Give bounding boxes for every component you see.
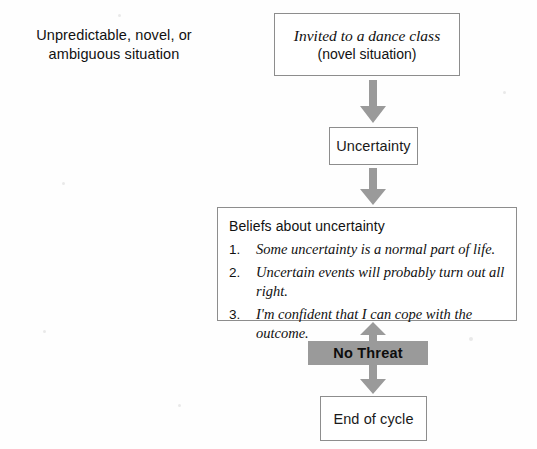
arrow-nothreat-to-endofcycle: [359, 364, 387, 395]
belief-item-number: 2.: [229, 265, 256, 280]
node-uncertainty: Uncertainty: [329, 127, 418, 165]
caption-line-2: ambiguous situation: [6, 45, 222, 64]
arrow-uncertainty-to-beliefs: [359, 168, 387, 206]
caption-line-1: Unpredictable, novel, or: [6, 26, 222, 45]
node-beliefs-about-uncertainty: Beliefs about uncertainty 1. Some uncert…: [217, 207, 517, 321]
scan-speckle: [178, 404, 181, 407]
belief-list-item: 2. Uncertain events will probably turn o…: [229, 263, 506, 301]
situation-category-caption: Unpredictable, novel, or ambiguous situa…: [6, 26, 222, 64]
scan-speckle: [43, 330, 46, 333]
node-no-threat-label: No Threat: [333, 345, 402, 361]
flowchart-diagram: Unpredictable, novel, or ambiguous situa…: [0, 0, 537, 449]
node-end-of-cycle: End of cycle: [320, 396, 427, 441]
scan-speckle: [503, 91, 506, 94]
belief-item-text: Uncertain events will probably turn out …: [256, 263, 506, 301]
scan-speckle: [62, 182, 65, 185]
belief-item-text: Some uncertainty is a normal part of lif…: [256, 240, 495, 259]
node-uncertainty-label: Uncertainty: [336, 138, 410, 154]
scan-speckle: [118, 14, 121, 17]
node-situation: Invited to a dance class (novel situatio…: [274, 13, 460, 76]
belief-item-number: 3.: [229, 307, 256, 322]
arrow-nothreat-to-beliefs: [359, 322, 387, 342]
node-end-of-cycle-label: End of cycle: [333, 411, 413, 427]
node-no-threat: No Threat: [308, 341, 428, 365]
belief-item-number: 1.: [229, 242, 256, 257]
node-situation-line-1: Invited to a dance class: [294, 26, 440, 45]
arrow-situation-to-uncertainty: [359, 80, 387, 124]
beliefs-title: Beliefs about uncertainty: [229, 217, 506, 235]
node-situation-line-2: (novel situation): [318, 45, 417, 64]
belief-list-item: 1. Some uncertainty is a normal part of …: [229, 240, 506, 259]
